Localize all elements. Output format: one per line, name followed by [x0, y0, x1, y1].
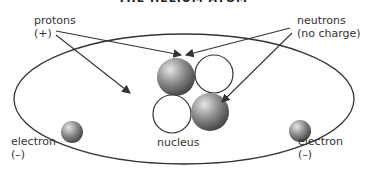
electron-left-sphere	[61, 121, 83, 143]
neutron-top	[195, 55, 233, 93]
neutrons-label: neutrons (no charge)	[297, 14, 361, 40]
protons-label: protons (+)	[34, 14, 76, 40]
electron-right-label: electron (–)	[298, 135, 343, 161]
proton-top	[157, 58, 195, 96]
neutron-bottom	[153, 95, 191, 133]
proton-bottom	[191, 93, 229, 131]
nucleus-label: nucleus	[157, 136, 200, 149]
nucleus	[153, 55, 233, 133]
electron-left-label: electron (–)	[11, 135, 56, 161]
